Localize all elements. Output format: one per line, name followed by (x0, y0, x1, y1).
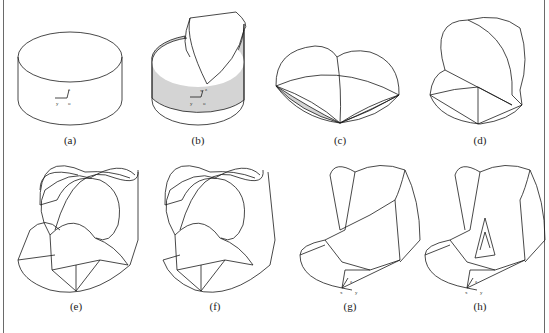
panel-label-d: (d) (474, 134, 487, 146)
panel-g-ring-solid-axes: z x y (300, 165, 420, 295)
panel-c-heart-solid (276, 46, 399, 123)
panel-label-c: (c) (334, 134, 346, 146)
panel-h-ring-solid-cut: z x y (425, 165, 545, 295)
svg-text:y: y (355, 290, 358, 295)
panel-f-ring-solid (163, 166, 275, 293)
panel-label-h: (h) (474, 300, 487, 312)
svg-text:z: z (68, 87, 71, 92)
svg-text:x: x (465, 290, 468, 295)
figure-drawing: z y o x z y o (0, 0, 549, 333)
panel-label-b: (b) (192, 134, 205, 146)
panel-label-f: (f) (210, 300, 221, 312)
panel-label-e: (e) (70, 300, 82, 312)
svg-text:y: y (56, 101, 59, 106)
svg-text:y: y (480, 290, 483, 295)
panel-d-folded-solid (430, 17, 525, 124)
panel-label-g: (g) (344, 300, 357, 312)
svg-text:x: x (340, 290, 343, 295)
panel-e-ring-solid (18, 166, 138, 293)
panel-label-a: (a) (64, 134, 76, 146)
svg-text:o: o (68, 101, 71, 106)
panel-b-cylinder-flap: x z y o (152, 12, 246, 125)
panel-a-cylinder: z y o (18, 32, 122, 125)
